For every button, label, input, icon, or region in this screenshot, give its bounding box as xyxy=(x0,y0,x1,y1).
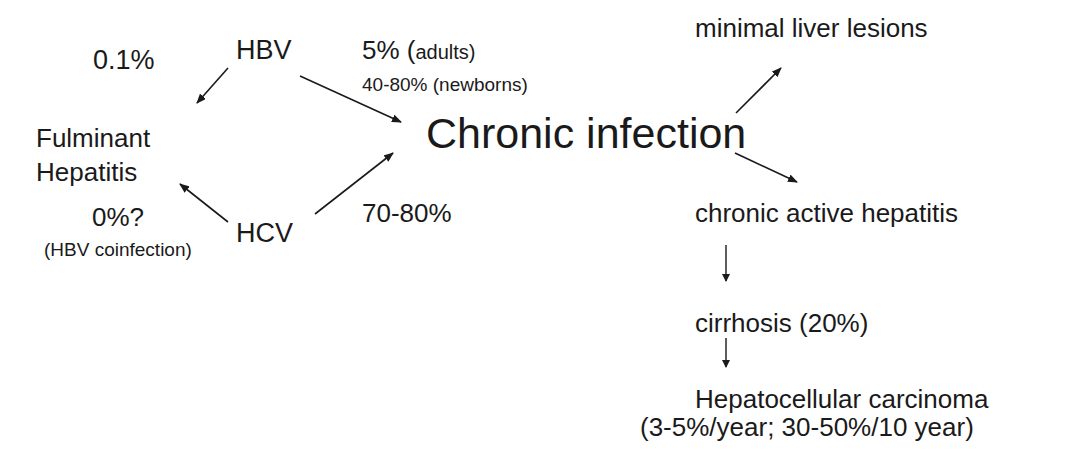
node-chronic-infection: Chronic infection xyxy=(426,112,746,155)
node-hcv: HCV xyxy=(236,220,293,247)
hcv-fulminant-rate: 0%? xyxy=(92,204,144,230)
arrow-hcv-to-fulminant xyxy=(180,184,228,222)
hbv-fulminant-rate: 0.1% xyxy=(93,47,155,74)
node-cirrhosis: cirrhosis (20%) xyxy=(695,310,868,336)
node-hbv: HBV xyxy=(236,37,292,64)
node-minimal-liver-lesions: minimal liver lesions xyxy=(695,15,928,41)
node-chronic-active-hepatitis: chronic active hepatitis xyxy=(695,200,958,226)
hcv-chronic-rate: 70-80% xyxy=(362,200,452,226)
hbv-chronic-rate-main: 5% ( xyxy=(362,35,415,65)
hbv-chronic-rate-adults: 5% (adults) xyxy=(362,37,476,63)
hcv-fulminant-note: (HBV coinfection) xyxy=(44,240,192,259)
hbv-chronic-adults-label: adults) xyxy=(415,41,475,63)
hbv-chronic-rate-newborns: 40-80% (newborns) xyxy=(362,75,528,94)
node-fulminant-line1: Fulminant xyxy=(36,125,150,151)
node-hepatocellular-carcinoma: Hepatocellular carcinoma xyxy=(695,386,988,412)
hcc-rate: (3-5%/year; 30-50%/10 year) xyxy=(640,414,974,440)
arrow-chronic-to-active xyxy=(735,153,797,182)
arrow-hbv-to-fulminant xyxy=(197,68,228,103)
arrow-chronic-to-minimal xyxy=(736,68,781,113)
node-fulminant-line2: Hepatitis xyxy=(36,159,137,185)
